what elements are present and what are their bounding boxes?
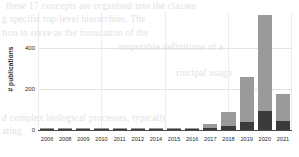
x-axis-tick-label: 2010 (95, 136, 107, 142)
bar-stack[interactable] (258, 15, 272, 130)
bar-segment-dark (221, 126, 235, 131)
bar-segment-dark (149, 129, 163, 130)
x-axis-tick-label: 2014 (150, 136, 162, 142)
bar-segment-dark (185, 129, 199, 130)
bar-stack[interactable] (276, 94, 290, 130)
bar-stack[interactable] (167, 128, 181, 130)
bar-stack[interactable] (76, 128, 90, 130)
bar-stack[interactable] (94, 128, 108, 130)
plot-area: 0200400 (38, 12, 292, 131)
bar-stack[interactable] (58, 128, 72, 130)
x-axis-tick-label: 2012 (132, 136, 144, 142)
bar-stack[interactable] (203, 124, 217, 130)
bar-segment-dark (76, 129, 90, 130)
bar-segment-dark (203, 128, 217, 130)
bar-chart: # publications 0200400 20062008200920102… (0, 0, 299, 157)
bar-stack[interactable] (240, 77, 254, 130)
x-axis-tick-label: 2008 (59, 136, 71, 142)
chart-screenshot: these 17 concepts are organised into the… (0, 0, 299, 157)
x-axis-ticks: 2006200820092010201120122014201520162017… (38, 136, 292, 148)
bar-segment-dark (94, 129, 108, 130)
x-axis-tick-label: 2011 (114, 136, 126, 142)
x-axis-tick-label: 2017 (204, 136, 216, 142)
y-axis-tick-label: 400 (25, 45, 35, 51)
bar-stack[interactable] (149, 128, 163, 130)
y-axis-tick-label: 0 (32, 127, 35, 133)
bar-segment-dark (167, 129, 181, 130)
x-axis-tick-label: 2021 (277, 136, 289, 142)
x-axis-tick-label: 2015 (168, 136, 180, 142)
bar-segment-dark (240, 122, 254, 130)
bar-segment-light (276, 94, 290, 121)
bar-segment-dark (131, 129, 145, 130)
bar-segment-light (258, 15, 272, 111)
bar-stack[interactable] (221, 112, 235, 130)
bar-stack[interactable] (40, 128, 54, 130)
bar-segment-light (221, 112, 235, 126)
bar-stack[interactable] (131, 128, 145, 130)
bar-segment-dark (58, 129, 72, 130)
bar-segment-light (240, 77, 254, 122)
y-axis-label: # publications (7, 36, 14, 102)
bar-segment-dark (258, 111, 272, 130)
bar-stack[interactable] (185, 128, 199, 130)
bar-series (38, 12, 292, 131)
bar-segment-dark (113, 129, 127, 130)
bar-segment-dark (276, 121, 290, 130)
x-axis-tick-label: 2020 (259, 136, 271, 142)
x-axis-tick-label: 2018 (222, 136, 234, 142)
bar-stack[interactable] (113, 128, 127, 130)
bar-segment-dark (40, 129, 54, 130)
x-axis-tick-label: 2006 (41, 136, 53, 142)
x-axis-tick-label: 2016 (186, 136, 198, 142)
x-axis-tick-label: 2009 (77, 136, 89, 142)
y-axis-tick-label: 200 (25, 86, 35, 92)
x-axis-tick-label: 2019 (240, 136, 252, 142)
